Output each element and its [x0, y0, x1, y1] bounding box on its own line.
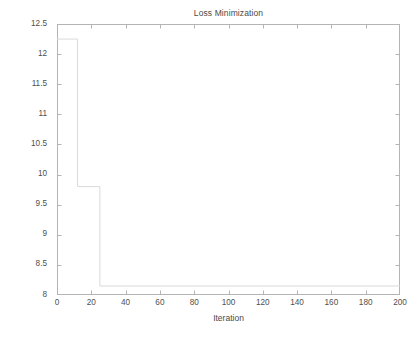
y-tick-label: 9 [42, 230, 52, 238]
y-tick-label: 10.5 [31, 140, 52, 148]
x-tick-label: 120 [256, 299, 270, 307]
x-tick-label: 20 [87, 299, 96, 307]
axes-box [58, 25, 400, 295]
y-tick-label: 11.5 [32, 80, 52, 88]
x-tick-label: 100 [222, 299, 236, 307]
x-tick-label: 60 [155, 299, 164, 307]
y-tick-label: 10 [38, 170, 52, 178]
y-tick-label: 12 [38, 50, 52, 58]
chart-title: Loss Minimization [57, 8, 400, 18]
plot-area [57, 24, 400, 295]
data-series-group [57, 39, 400, 286]
y-tick-label: 9.5 [36, 200, 52, 208]
x-tick-label: 40 [121, 299, 130, 307]
x-tick-label: 160 [325, 299, 339, 307]
y-tick-label: 12.5 [31, 20, 52, 28]
figure-canvas: Loss Minimization Loss (MW) 88.599.51010… [0, 0, 420, 339]
x-axis-label: Iteration [57, 313, 400, 323]
x-tick-label: 80 [190, 299, 199, 307]
plot-svg [57, 24, 400, 295]
x-tick-label: 140 [290, 299, 304, 307]
y-axis-tick-labels: 88.599.51010.51111.51212.5 [0, 24, 52, 295]
y-tick-label: 8 [42, 291, 52, 299]
x-tick-label: 0 [55, 299, 60, 307]
y-tick-label: 11 [39, 110, 53, 118]
y-tick-label: 8.5 [36, 260, 52, 268]
axis-tick-marks [58, 25, 401, 296]
x-tick-label: 180 [359, 299, 373, 307]
series-line-0 [57, 39, 400, 286]
x-axis-tick-labels: 020406080100120140160180200 [57, 299, 400, 311]
x-tick-label: 200 [393, 299, 407, 307]
